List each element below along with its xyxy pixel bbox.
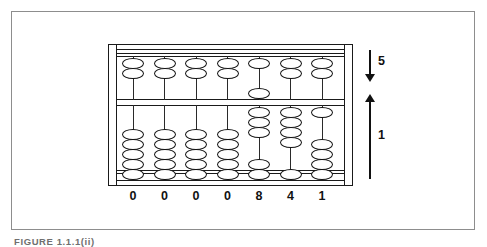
abacus-bead-lower-active[interactable] <box>248 127 270 138</box>
abacus-column[interactable] <box>309 44 335 186</box>
abacus-column-digit: 0 <box>183 188 209 204</box>
abacus-bead-upper-inactive[interactable] <box>122 68 144 79</box>
abacus-column[interactable] <box>215 44 241 186</box>
abacus-column-digit: 0 <box>215 188 241 204</box>
abacus-bead-lower-inactive[interactable] <box>311 159 333 170</box>
abacus-bead-upper-active[interactable] <box>248 88 270 99</box>
abacus-digit-labels: 0000841 <box>108 188 353 204</box>
abacus-bead-lower-active[interactable] <box>311 107 333 118</box>
abacus-bead-lower-inactive[interactable] <box>154 139 176 150</box>
abacus-bead-lower-inactive[interactable] <box>122 139 144 150</box>
upper-bead-arrow-head-icon <box>365 74 375 82</box>
abacus-bead-upper-inactive[interactable] <box>217 68 239 79</box>
abacus-bead-lower-inactive[interactable] <box>185 149 207 160</box>
abacus-bead-lower-inactive[interactable] <box>217 129 239 140</box>
abacus-column[interactable] <box>183 44 209 186</box>
abacus-column[interactable] <box>152 44 178 186</box>
upper-bead-value-label: 5 <box>378 54 385 68</box>
abacus-column-digit: 0 <box>120 188 146 204</box>
abacus-bead-upper-inactive[interactable] <box>248 58 270 69</box>
abacus-bead-lower-inactive[interactable] <box>154 159 176 170</box>
abacus-bead-upper-inactive[interactable] <box>185 68 207 79</box>
abacus-bead-lower-inactive[interactable] <box>154 149 176 160</box>
abacus-bead-lower-inactive[interactable] <box>154 129 176 140</box>
abacus-bead-lower-inactive[interactable] <box>248 159 270 170</box>
abacus-bead-lower-inactive[interactable] <box>217 169 239 180</box>
abacus-column[interactable] <box>278 44 304 186</box>
abacus-bead-lower-inactive[interactable] <box>280 169 302 180</box>
abacus-bead-lower-inactive[interactable] <box>217 139 239 150</box>
abacus-bead-lower-inactive[interactable] <box>154 169 176 180</box>
abacus-bead-lower-inactive[interactable] <box>122 129 144 140</box>
abacus-bead-lower-active[interactable] <box>280 137 302 148</box>
abacus-frame-left <box>108 44 117 186</box>
abacus-column[interactable] <box>246 44 272 186</box>
abacus-bead-lower-inactive[interactable] <box>185 159 207 170</box>
abacus-bead-lower-inactive[interactable] <box>311 149 333 160</box>
abacus-bead-lower-inactive[interactable] <box>122 159 144 170</box>
figure-caption: FIGURE 1.1.1(ii) <box>14 236 95 247</box>
abacus-column-digit: 0 <box>152 188 178 204</box>
lower-bead-arrow-shaft <box>369 101 371 179</box>
abacus-bead-upper-inactive[interactable] <box>311 68 333 79</box>
abacus <box>108 44 353 186</box>
abacus-bead-lower-inactive[interactable] <box>311 139 333 150</box>
abacus-column-digit: 8 <box>246 188 272 204</box>
upper-bead-arrow-shaft <box>369 50 371 76</box>
abacus-bead-lower-inactive[interactable] <box>185 129 207 140</box>
abacus-frame-right <box>344 44 353 186</box>
abacus-bead-lower-inactive[interactable] <box>217 159 239 170</box>
abacus-bead-upper-inactive[interactable] <box>154 68 176 79</box>
abacus-column[interactable] <box>120 44 146 186</box>
bead-value-annotations: 5 1 <box>362 48 408 188</box>
abacus-bead-lower-inactive[interactable] <box>185 139 207 150</box>
abacus-bead-lower-inactive[interactable] <box>122 169 144 180</box>
abacus-bead-lower-inactive[interactable] <box>122 149 144 160</box>
abacus-bead-lower-inactive[interactable] <box>311 169 333 180</box>
abacus-bead-upper-inactive[interactable] <box>280 68 302 79</box>
abacus-bead-lower-inactive[interactable] <box>185 169 207 180</box>
abacus-bead-lower-inactive[interactable] <box>248 169 270 180</box>
abacus-bead-lower-inactive[interactable] <box>217 149 239 160</box>
abacus-column-digit: 1 <box>309 188 335 204</box>
abacus-column-digit: 4 <box>278 188 304 204</box>
lower-bead-value-label: 1 <box>378 128 385 142</box>
